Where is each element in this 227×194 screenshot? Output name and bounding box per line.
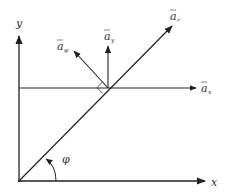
svg-text:a: a <box>104 30 111 43</box>
a-r-vector <box>19 26 172 181</box>
svg-text:r: r <box>177 16 181 23</box>
svg-text:y: y <box>110 36 115 44</box>
svg-text:a: a <box>170 10 177 23</box>
origin-point <box>18 180 20 182</box>
x-axis-label: x <box>211 176 218 189</box>
angle-arc-phi <box>46 159 56 181</box>
a-x-label: a x <box>201 82 212 95</box>
svg-text:a: a <box>201 82 208 95</box>
a-y-label: a y <box>104 30 115 44</box>
coordinate-diagram: y x φ a r a y a φ a x <box>0 0 227 194</box>
a-r-label: a r <box>170 10 181 23</box>
a-phi-vector <box>74 51 108 88</box>
y-axis-label: y <box>15 17 23 30</box>
a-phi-label: a φ <box>57 40 69 54</box>
svg-text:a: a <box>57 40 64 53</box>
angle-phi-label: φ <box>62 153 70 166</box>
svg-text:φ: φ <box>64 46 69 54</box>
svg-text:x: x <box>208 88 212 95</box>
